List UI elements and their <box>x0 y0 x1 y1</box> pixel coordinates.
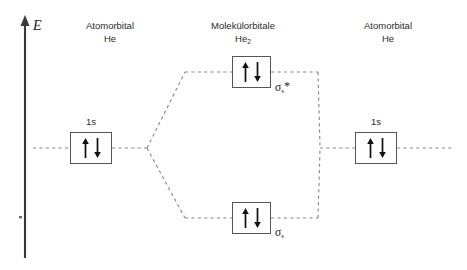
spin-up-arrow <box>81 137 90 159</box>
column-title-right-atom-line1: Atomorbital <box>364 20 412 31</box>
correlation-left-to-antibonding <box>147 72 185 148</box>
energy-axis-label: E <box>33 18 42 34</box>
column-title-molecule-line1: Molekülorbitale <box>211 20 275 31</box>
column-title-molecule-formula: He <box>235 33 247 44</box>
sigma-antibonding-label: σs* <box>275 80 290 95</box>
spin-down-arrow <box>253 207 262 229</box>
orbital-box-right-1s <box>355 132 397 164</box>
orbital-box-sigma-antibonding <box>232 56 271 88</box>
column-title-molecule-line2: He2 <box>183 33 303 47</box>
correlation-left-to-bonding <box>147 148 185 218</box>
mo-diagram-canvas: E Atomorbital He Molekülorbitale He2 Ato… <box>0 0 467 270</box>
right-1s-label: 1s <box>355 116 397 127</box>
spin-down-arrow <box>378 137 387 159</box>
sigma-bonding-label: σs <box>275 226 284 238</box>
orbital-box-sigma-bonding <box>232 202 271 234</box>
axis-tick <box>19 216 22 218</box>
spin-up-arrow <box>366 137 375 159</box>
column-title-molecule: Molekülorbitale He2 <box>183 20 303 46</box>
column-title-left-atom-line2: He <box>55 33 165 46</box>
energy-axis <box>21 15 30 258</box>
column-title-left-atom: Atomorbital He <box>55 20 165 45</box>
column-title-right-atom: Atomorbital He <box>333 20 443 45</box>
column-title-left-atom-line1: Atomorbital <box>86 20 134 31</box>
left-1s-label: 1s <box>70 116 112 127</box>
column-title-molecule-subscript: 2 <box>247 38 251 45</box>
spin-up-arrow <box>241 61 250 83</box>
correlation-bonding-to-right <box>318 148 320 218</box>
sigma-antibonding-star: * <box>284 79 290 93</box>
spin-up-arrow <box>241 207 250 229</box>
orbital-box-left-1s <box>70 132 112 164</box>
spin-down-arrow <box>93 137 102 159</box>
sigma-bonding-subscript: s <box>281 232 284 240</box>
column-title-right-atom-line2: He <box>333 33 443 46</box>
correlation-antibonding-to-right <box>318 72 320 148</box>
spin-down-arrow <box>253 61 262 83</box>
